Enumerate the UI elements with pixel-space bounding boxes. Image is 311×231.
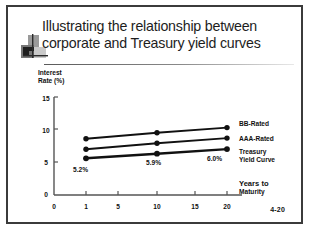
series-label-aaa-rated: AAA-Rated: [239, 135, 274, 143]
page-number: 4-20: [270, 206, 285, 213]
data-point: [154, 130, 159, 135]
series-label-treasury-yield-curve: Treasury Yield Curve: [239, 148, 275, 165]
series-label-treasury-line-1: Treasury: [239, 148, 275, 156]
yield-curve-chart: Interest Rate (%) Years to Maturity 15 1…: [8, 7, 305, 226]
value-annotation-6-0: 6.0%: [207, 155, 222, 162]
data-point: [83, 147, 88, 152]
value-annotation-5-2: 5.2%: [73, 166, 88, 173]
data-point: [224, 125, 229, 130]
series-label-treasury-line-2: Yield Curve: [239, 156, 275, 164]
data-point: [224, 135, 229, 140]
series-label-bb-rated: BB-Rated: [239, 120, 269, 128]
slide-frame: Illustrating the relationship between co…: [6, 5, 303, 224]
data-point: [154, 141, 159, 146]
data-point: [154, 151, 160, 157]
value-annotation-5-9: 5.9%: [146, 159, 161, 166]
data-point: [83, 136, 88, 141]
data-point: [83, 155, 89, 161]
chart-plot-svg: [8, 7, 305, 226]
data-point: [224, 146, 230, 152]
